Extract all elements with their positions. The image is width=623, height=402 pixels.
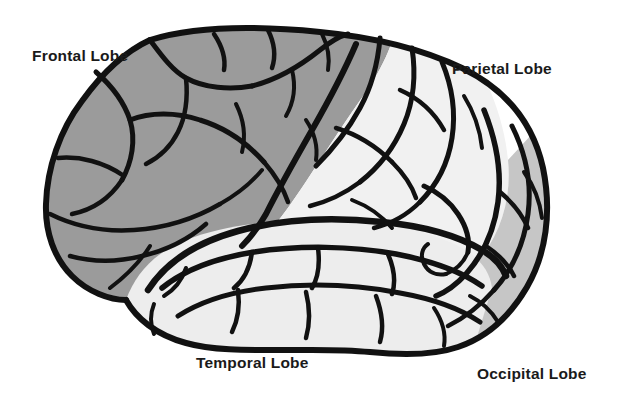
label-frontal-lobe: Frontal Lobe [32,48,128,64]
label-parietal-lobe: Parietal Lobe [452,61,552,77]
label-temporal-lobe: Temporal Lobe [196,355,309,371]
label-occipital-lobe: Occipital Lobe [477,366,587,382]
